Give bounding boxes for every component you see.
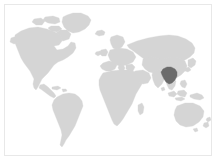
world-locator-map-figure	[0, 0, 217, 161]
world-map-canvas	[5, 5, 211, 155]
